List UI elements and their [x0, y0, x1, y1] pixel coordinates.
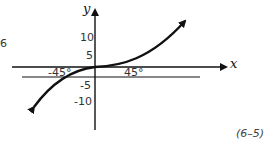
y-tick-5: 5 [86, 50, 93, 61]
y-tick-neg5: -5 [80, 80, 91, 91]
equation-number: (6–5) [236, 128, 264, 139]
x-axis-label: x [230, 58, 237, 69]
y-tick-10: 10 [80, 32, 94, 43]
y-axis-label: y [83, 3, 90, 14]
function-curve [34, 21, 185, 107]
angle-label-left: -45° [48, 67, 71, 78]
y-tick-neg10: -10 [74, 96, 92, 107]
side-marker: 6 [0, 38, 7, 49]
angle-label-right: 45° [124, 67, 144, 78]
